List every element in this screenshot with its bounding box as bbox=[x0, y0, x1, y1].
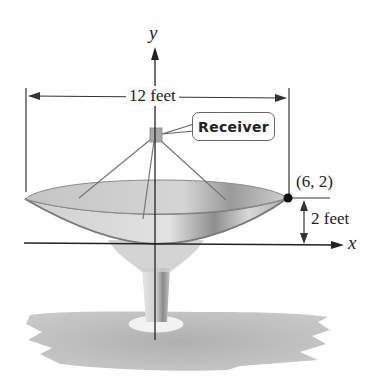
callout-pointer bbox=[162, 124, 194, 134]
point-label: (6, 2) bbox=[296, 172, 333, 192]
depth-arrow-down-icon bbox=[300, 233, 308, 244]
x-axis-label: x bbox=[348, 232, 356, 254]
width-dimension-label: 12 feet bbox=[126, 86, 179, 106]
satellite-dish-diagram: y x 12 feet 2 feet (6, 2) Receiver bbox=[0, 0, 379, 383]
y-axis-arrow-icon bbox=[151, 47, 159, 60]
width-arrow-right-icon bbox=[275, 94, 287, 102]
receiver-callout: Receiver bbox=[192, 112, 275, 141]
depth-dimension-label: 2 feet bbox=[308, 209, 352, 229]
dish-pole bbox=[142, 268, 170, 322]
depth-arrow-up-icon bbox=[300, 200, 308, 211]
point-marker bbox=[284, 194, 293, 203]
y-axis-label: y bbox=[149, 22, 157, 44]
receiver-device bbox=[150, 128, 162, 142]
x-axis-arrow-icon bbox=[331, 241, 344, 249]
width-arrow-left-icon bbox=[28, 92, 40, 100]
